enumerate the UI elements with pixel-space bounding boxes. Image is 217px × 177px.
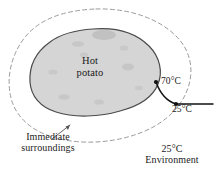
immediate-surroundings-label-line1: Immediate [4, 131, 92, 142]
environment-label: 25°C Environment [132, 143, 212, 165]
potato-spot [135, 86, 143, 90]
immediate-surroundings-label-line2: surroundings [4, 142, 92, 153]
surface-temperature-point [154, 80, 158, 84]
hot-potato-label-line1: Hot [62, 55, 118, 67]
hot-potato-label: Hot potato [62, 55, 118, 79]
hot-potato-label-line2: potato [62, 67, 118, 79]
surroundings-temperature-label: 25°C [172, 104, 192, 115]
immediate-surroundings-label: Immediate surroundings [4, 131, 92, 153]
potato-spot [94, 99, 104, 104]
potato-spot [92, 30, 116, 40]
potato-spot [120, 45, 129, 50]
environment-label-line2: Environment [132, 154, 212, 165]
potato-spot [49, 69, 58, 74]
potato-spot [122, 64, 134, 71]
environment-label-line1: 25°C [132, 143, 212, 154]
potato-spot [59, 94, 70, 100]
potato-spot [72, 41, 84, 47]
potato-heat-transfer-figure: Hot potato 70°C 25°C Immediate surroundi… [0, 0, 217, 177]
surface-temperature-label: 70°C [161, 76, 181, 87]
